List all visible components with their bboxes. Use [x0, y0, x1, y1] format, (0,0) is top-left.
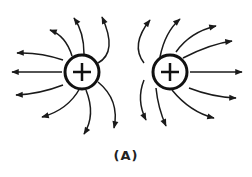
charge-left	[65, 55, 99, 89]
figure-caption: (A)	[0, 148, 252, 163]
charge-right	[153, 55, 187, 89]
